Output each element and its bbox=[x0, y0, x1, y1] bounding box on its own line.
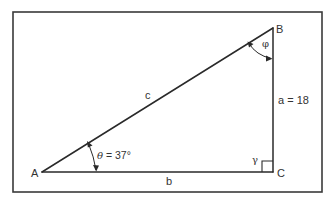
theta-value: = 37° bbox=[103, 149, 131, 161]
right-triangle-diagram: A B C c b a = 18 θ = 37° φ γ bbox=[0, 0, 335, 206]
angle-label-theta: θ = 37° bbox=[97, 149, 131, 161]
vertex-label-a: A bbox=[31, 167, 39, 179]
side-label-c: c bbox=[145, 89, 151, 101]
vertex-label-c: C bbox=[277, 167, 285, 179]
side-label-a: a = 18 bbox=[278, 94, 309, 106]
angle-label-gamma: γ bbox=[252, 154, 258, 165]
vertex-label-b: B bbox=[276, 23, 283, 35]
diagram-frame bbox=[13, 12, 322, 192]
angle-label-phi: φ bbox=[262, 38, 269, 49]
side-label-b: b bbox=[166, 175, 172, 187]
